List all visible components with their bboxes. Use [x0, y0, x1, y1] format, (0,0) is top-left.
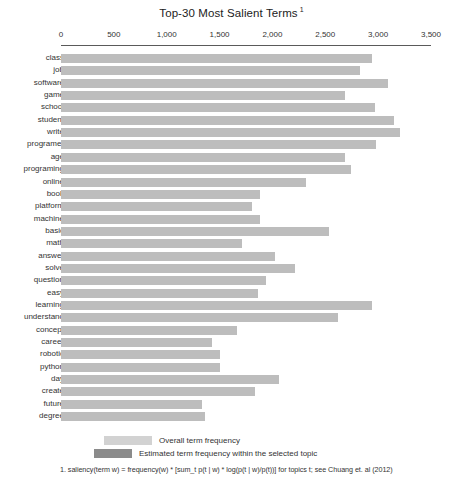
bar-row[interactable]: robotic: [0, 349, 463, 361]
bar-row[interactable]: answer: [0, 251, 463, 263]
bar-group[interactable]: [61, 387, 255, 396]
bar-overall-frequency[interactable]: [61, 128, 400, 137]
bar-overall-frequency[interactable]: [61, 264, 295, 273]
bar-row[interactable]: easy: [0, 288, 463, 300]
bar-overall-frequency[interactable]: [61, 313, 338, 322]
bar-group[interactable]: [61, 239, 242, 248]
bar-overall-frequency[interactable]: [61, 387, 255, 396]
bar-row[interactable]: school: [0, 102, 463, 114]
bar-group[interactable]: [61, 128, 400, 137]
bar-row[interactable]: career: [0, 337, 463, 349]
term-label: age: [0, 152, 64, 162]
bar-overall-frequency[interactable]: [61, 375, 279, 384]
term-label: concept: [0, 325, 64, 335]
bar-group[interactable]: [61, 326, 237, 335]
bar-overall-frequency[interactable]: [61, 289, 258, 298]
bar-row[interactable]: programing: [0, 164, 463, 176]
x-tick-label: 0: [59, 30, 63, 39]
bar-row[interactable]: create: [0, 386, 463, 398]
bar-row[interactable]: day: [0, 374, 463, 386]
bar-group[interactable]: [61, 301, 372, 310]
bar-group[interactable]: [61, 350, 220, 359]
bar-group[interactable]: [61, 363, 220, 372]
term-label: school: [0, 102, 64, 112]
bar-overall-frequency[interactable]: [61, 165, 351, 174]
bar-row[interactable]: machine: [0, 214, 463, 226]
bar-group[interactable]: [61, 103, 375, 112]
bar-group[interactable]: [61, 289, 258, 298]
bar-row[interactable]: question: [0, 275, 463, 287]
bar-row[interactable]: programer: [0, 139, 463, 151]
bar-group[interactable]: [61, 178, 306, 187]
bar-group[interactable]: [61, 91, 345, 100]
bar-row[interactable]: job: [0, 65, 463, 77]
bar-overall-frequency[interactable]: [61, 227, 329, 236]
bar-overall-frequency[interactable]: [61, 66, 360, 75]
bar-group[interactable]: [61, 215, 260, 224]
x-tick-label: 500: [107, 30, 120, 39]
bar-row[interactable]: online: [0, 177, 463, 189]
bar-group[interactable]: [61, 412, 205, 421]
bar-row[interactable]: concept: [0, 325, 463, 337]
bar-overall-frequency[interactable]: [61, 350, 220, 359]
bar-group[interactable]: [61, 79, 388, 88]
bar-group[interactable]: [61, 54, 372, 63]
bar-row[interactable]: platform: [0, 201, 463, 213]
bar-row[interactable]: basic: [0, 226, 463, 238]
bar-row[interactable]: student: [0, 115, 463, 127]
bar-overall-frequency[interactable]: [61, 116, 394, 125]
bar-row[interactable]: python: [0, 362, 463, 374]
bar-overall-frequency[interactable]: [61, 363, 220, 372]
bar-row[interactable]: class: [0, 53, 463, 65]
bar-row[interactable]: book: [0, 189, 463, 201]
bar-row[interactable]: understand: [0, 312, 463, 324]
bar-group[interactable]: [61, 165, 351, 174]
bar-overall-frequency[interactable]: [61, 338, 212, 347]
bar-group[interactable]: [61, 338, 212, 347]
bar-group[interactable]: [61, 252, 275, 261]
bar-overall-frequency[interactable]: [61, 276, 266, 285]
bar-overall-frequency[interactable]: [61, 215, 260, 224]
bar-overall-frequency[interactable]: [61, 326, 237, 335]
bar-group[interactable]: [61, 375, 279, 384]
bar-group[interactable]: [61, 276, 266, 285]
legend: Overall term frequency Estimated term fr…: [0, 431, 463, 463]
bar-row[interactable]: software: [0, 78, 463, 90]
bar-overall-frequency[interactable]: [61, 239, 242, 248]
bar-overall-frequency[interactable]: [61, 178, 306, 187]
bar-overall-frequency[interactable]: [61, 202, 252, 211]
bar-overall-frequency[interactable]: [61, 91, 345, 100]
bar-group[interactable]: [61, 140, 376, 149]
bar-row[interactable]: solve: [0, 263, 463, 275]
bar-overall-frequency[interactable]: [61, 140, 376, 149]
bar-row[interactable]: age: [0, 152, 463, 164]
bar-overall-frequency[interactable]: [61, 103, 375, 112]
title-footnote-marker: 1: [300, 6, 304, 13]
bar-row[interactable]: math: [0, 238, 463, 250]
bar-group[interactable]: [61, 264, 295, 273]
bar-overall-frequency[interactable]: [61, 79, 388, 88]
x-tick-label: 2,500: [315, 30, 335, 39]
bar-row[interactable]: game: [0, 90, 463, 102]
bar-overall-frequency[interactable]: [61, 252, 275, 261]
bar-group[interactable]: [61, 313, 338, 322]
bar-group[interactable]: [61, 153, 345, 162]
term-label: future: [0, 399, 64, 409]
bar-group[interactable]: [61, 227, 329, 236]
bar-overall-frequency[interactable]: [61, 400, 202, 409]
bar-group[interactable]: [61, 66, 360, 75]
bar-row[interactable]: future: [0, 399, 463, 411]
term-label: write: [0, 127, 64, 137]
bar-group[interactable]: [61, 202, 252, 211]
bar-row[interactable]: learning: [0, 300, 463, 312]
bar-overall-frequency[interactable]: [61, 412, 205, 421]
bar-overall-frequency[interactable]: [61, 153, 345, 162]
bar-overall-frequency[interactable]: [61, 301, 372, 310]
bar-overall-frequency[interactable]: [61, 54, 372, 63]
bar-row[interactable]: degree: [0, 411, 463, 423]
bar-overall-frequency[interactable]: [61, 190, 260, 199]
bar-group[interactable]: [61, 116, 394, 125]
bar-group[interactable]: [61, 400, 202, 409]
bar-row[interactable]: write: [0, 127, 463, 139]
bar-group[interactable]: [61, 190, 260, 199]
